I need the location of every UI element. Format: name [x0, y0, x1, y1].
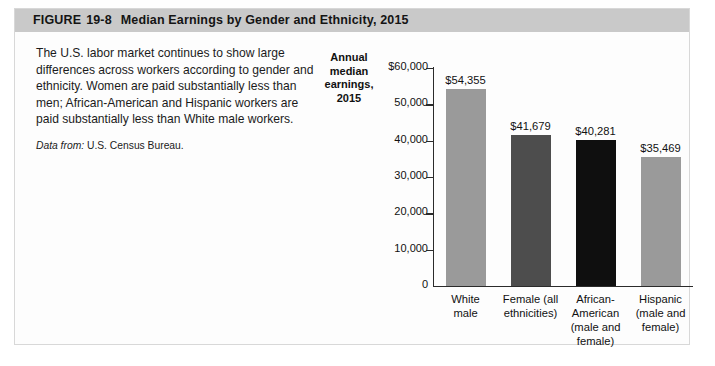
bar-rect[interactable] [576, 140, 616, 286]
caption-source-value: U.S. Census Bureau. [87, 140, 184, 151]
caption-source: Data from: U.S. Census Bureau. [36, 140, 319, 151]
y-axis-title-line: Annual [319, 51, 379, 65]
figure-number: 19-8 [86, 13, 112, 27]
x-axis-category-label: Hispanic(male andfemale) [625, 292, 697, 334]
y-axis-title: Annualmedianearnings,2015 [319, 51, 379, 105]
y-axis-tick-label: 50,000 [394, 96, 428, 108]
caption-body: The U.S. labor market continues to show … [36, 45, 319, 128]
x-axis-category-line: ethnicities) [495, 306, 567, 320]
x-axis-category-label: African-American(male andfemale) [560, 292, 632, 348]
x-axis-category-label: Female (allethnicities) [495, 292, 567, 320]
caption-column: The U.S. labor market continues to show … [36, 45, 319, 151]
x-axis-category-label: Whitemale [430, 292, 502, 320]
y-axis-tick-label: $60,000 [388, 60, 428, 72]
figure-label: FIGURE [33, 13, 81, 27]
y-axis-tick-mark [426, 141, 433, 142]
figure-title: Median Earnings by Gender and Ethnicity,… [121, 13, 409, 27]
figure-header-bar: FIGURE19-8Median Earnings by Gender and … [15, 9, 689, 32]
y-axis-tick-label: 10,000 [394, 242, 428, 254]
y-axis-tick-label: 20,000 [394, 205, 428, 217]
y-axis-tick-mark [426, 250, 433, 251]
bar-rect[interactable] [511, 135, 551, 286]
bar-chart: Annualmedianearnings,2015 $60,00050,0004… [315, 39, 691, 344]
x-axis-category-line: male [430, 306, 502, 320]
bar[interactable]: $54,355 [446, 89, 486, 286]
y-axis-tick-mark [426, 104, 433, 105]
bar-rect[interactable] [446, 89, 486, 286]
x-axis-category-line: female) [560, 334, 632, 348]
x-axis-category-line: White [430, 292, 502, 306]
x-axis-category-line: (male and [560, 320, 632, 334]
x-axis-category-line: American [560, 306, 632, 320]
bar-value-label: $35,469 [640, 142, 680, 154]
y-axis-title-line: 2015 [319, 92, 379, 106]
bar[interactable]: $41,679 [511, 135, 551, 286]
x-axis-line [433, 286, 693, 287]
y-axis-tick-mark [426, 213, 433, 214]
y-axis-tick-label: 30,000 [394, 169, 428, 181]
bar[interactable]: $35,469 [641, 157, 681, 286]
y-axis-tick-mark [426, 68, 433, 69]
y-axis-title-line: earnings, [319, 78, 379, 92]
x-axis-category-line: (male and [625, 306, 697, 320]
x-axis-category-line: African- [560, 292, 632, 306]
bar-value-label: $41,679 [510, 120, 550, 132]
y-axis-tick-label: 0 [422, 278, 428, 290]
y-axis-tick-mark [426, 177, 433, 178]
figure-header-text: FIGURE19-8Median Earnings by Gender and … [33, 13, 409, 27]
x-axis-category-line: female) [625, 320, 697, 334]
x-axis-category-line: Hispanic [625, 292, 697, 306]
y-axis-title-line: median [319, 65, 379, 79]
bar-value-label: $40,281 [575, 125, 615, 137]
bar-value-label: $54,355 [445, 74, 485, 86]
bar-rect[interactable] [641, 157, 681, 286]
bar[interactable]: $40,281 [576, 140, 616, 286]
figure-panel: FIGURE19-8Median Earnings by Gender and … [14, 8, 690, 345]
caption-source-label: Data from: [36, 140, 84, 151]
x-axis-category-line: Female (all [495, 292, 567, 306]
y-axis-line [433, 67, 434, 287]
y-axis-tick-label: 40,000 [394, 133, 428, 145]
